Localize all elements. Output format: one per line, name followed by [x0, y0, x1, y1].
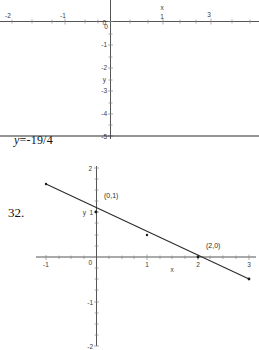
marker-0-1: [95, 211, 98, 214]
equation-rhs: -19/4: [27, 133, 53, 147]
bottom-xtick-0: 0: [88, 259, 92, 266]
bottom-xtick--1: -1: [43, 261, 49, 268]
top-xtick-3: 3: [207, 11, 211, 18]
annotation-0-1: (0,1): [104, 192, 118, 200]
bottom-xtick-1: 1: [145, 261, 149, 268]
graph-bottom-sloped-line: -1 0 1 2 3 x 2 1 -1 -2 y: [0, 160, 259, 350]
bottom-y-axis-label: y: [83, 209, 87, 217]
top-ytick--1: -1: [101, 41, 107, 48]
bottom-ytick-1: 1: [89, 209, 93, 216]
marker-3--0.5: [248, 278, 251, 281]
marker-1-0.5: [146, 234, 148, 236]
graph-top-horizontal-line: -2 -1 0 1 3 x 0 -1 -2 -3 -4 -5 y y=-19/4: [0, 0, 259, 160]
worksheet-page: -2 -1 0 1 3 x 0 -1 -2 -3 -4 -5 y y=-19/4…: [0, 0, 259, 350]
annotation-2-0: (2,0): [206, 242, 220, 250]
top-y-axis-label: y: [103, 76, 107, 84]
equation-op: =: [20, 133, 27, 147]
top-ytick-0: 0: [102, 19, 106, 26]
graph-bottom-svg: -1 0 1 2 3 x 2 1 -1 -2 y: [0, 160, 259, 350]
bottom-ytick--1: -1: [87, 299, 93, 306]
top-xtick--1: -1: [60, 12, 66, 19]
marker--1-1.5: [45, 183, 47, 185]
marker-2-0: [197, 256, 200, 259]
top-xtick--2: -2: [5, 12, 11, 19]
bottom-ytick--2: -2: [87, 343, 93, 350]
bottom-xtick-3: 3: [247, 261, 251, 268]
top-ytick--3: -3: [101, 87, 107, 94]
top-xtick-1: 1: [160, 13, 164, 20]
top-ytick--4: -4: [101, 110, 107, 117]
top-x-axis-label: x: [160, 4, 164, 11]
bottom-ytick-2: 2: [88, 165, 92, 172]
bottom-xtick-2: 2: [196, 261, 200, 268]
bottom-x-axis-label: x: [170, 266, 174, 273]
equation-label: y=-19/4: [14, 133, 53, 148]
top-ytick--2: -2: [101, 64, 107, 71]
